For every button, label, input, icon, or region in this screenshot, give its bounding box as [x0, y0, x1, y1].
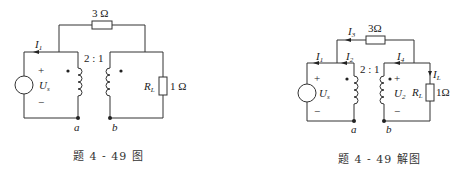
- wire-primary-bottom: [24, 94, 78, 118]
- resistor-3ohm-label: 3Ω: [368, 22, 382, 34]
- source-minus: −: [38, 96, 44, 108]
- node-b-label: b: [112, 121, 118, 133]
- wire-primary: [24, 52, 78, 76]
- current-il-label: IL: [432, 68, 441, 82]
- polarity-dot-primary: [66, 69, 69, 72]
- source-label: Us: [319, 87, 330, 101]
- transformer-ratio: 2 : 1: [360, 63, 380, 75]
- circuit-diagram-solution: 3Ω 2 : 1 I1 I2 I3 I4 IL + Us − + U2 − RL…: [230, 0, 457, 140]
- voltage-source-icon: [15, 76, 33, 94]
- secondary-coil-icon: [380, 76, 384, 104]
- resistor-load: [426, 84, 434, 101]
- wire-bridge-right: [112, 25, 145, 52]
- resistor-3ohm-label: 3 Ω: [92, 7, 108, 19]
- secondary-minus: −: [394, 105, 400, 117]
- wire-secondary-bottom: [110, 95, 163, 118]
- node-b-label: b: [386, 123, 392, 135]
- current-i2-label: I2: [345, 50, 354, 64]
- node-b-dot: [108, 116, 112, 120]
- polarity-dot-primary: [345, 77, 348, 80]
- resistor-3ohm: [366, 36, 385, 44]
- current-arrow-i3: [345, 38, 351, 42]
- wire-bridge: [59, 25, 92, 52]
- resistor-load: [159, 77, 167, 95]
- source-label: Us: [39, 79, 50, 93]
- wire-secondary-bottom: [384, 101, 430, 121]
- voltage-source-icon: [298, 84, 316, 102]
- load-value: 1 Ω: [170, 80, 186, 92]
- secondary-coil-icon: [106, 68, 110, 96]
- node-a-dot: [76, 116, 80, 120]
- polarity-dot-secondary: [388, 77, 391, 80]
- load-label: RL: [411, 86, 423, 100]
- resistor-3ohm: [92, 21, 112, 29]
- node-a-label: a: [74, 121, 80, 133]
- current-i1-label: I1: [34, 38, 42, 52]
- load-label: RL: [143, 80, 155, 94]
- current-i3-label: I3: [347, 25, 356, 39]
- node-a-label: a: [351, 123, 357, 135]
- caption-problem: 题 4 - 49 图: [73, 147, 144, 163]
- circuit-diagram-problem: 3 Ω 2 : 1 I1 + Us − RL 1 Ω a b: [0, 0, 230, 140]
- primary-coil-icon: [78, 68, 82, 96]
- source-minus: −: [314, 105, 320, 117]
- wire-secondary: [110, 52, 163, 77]
- secondary-plus: +: [394, 72, 400, 84]
- source-plus: +: [314, 72, 320, 84]
- current-i4-label: I4: [396, 50, 405, 64]
- primary-coil-icon: [354, 76, 358, 104]
- polarity-dot-secondary: [119, 69, 122, 72]
- source-plus: +: [38, 64, 44, 76]
- current-arrow-il: [428, 71, 432, 76]
- caption-solution: 题 4 - 49 解图: [338, 150, 421, 166]
- secondary-voltage-label: U2: [394, 87, 406, 101]
- load-value: 1Ω: [436, 86, 450, 98]
- current-i1-label: I1: [315, 50, 323, 64]
- wire-secondary: [384, 63, 430, 84]
- transformer-ratio: 2 : 1: [84, 52, 104, 64]
